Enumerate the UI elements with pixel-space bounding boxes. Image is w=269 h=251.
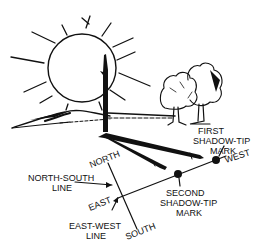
first-mark-label-2: SHADOW-TIP [193,136,250,146]
ew-line-label-1: EAST-WEST [69,221,122,231]
south-label: SOUTH [124,221,157,242]
ns-line-label-1: NORTH-SOUTH [28,173,94,183]
ns-line-label-2: LINE [52,183,72,193]
north-label: NORTH [88,149,121,170]
ew-line-label-2: LINE [86,231,106,241]
north-south-line [108,163,137,229]
first-mark-label-1: FIRST [198,126,225,136]
east-label: EAST [87,195,113,213]
second-mark-label-1: SECOND [166,188,205,198]
second-mark-label-3: MARK [176,208,202,218]
stick-icon [100,54,108,132]
shadow-tip-diagram: FIRST SHADOW-TIP MARK WEST SECOND SHADOW… [0,0,269,251]
ew-line-arrow [112,197,118,210]
sun-icon [11,16,150,110]
second-mark-label-2: SHADOW-TIP [160,198,217,208]
first-shadow-tip-mark [212,156,220,164]
second-shadow-tip-mark [174,170,182,178]
hill-icon [12,110,175,128]
